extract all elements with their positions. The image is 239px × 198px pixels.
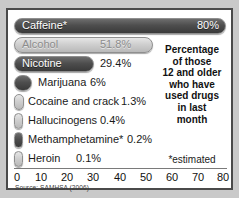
bar-marijuana xyxy=(14,75,32,91)
bar-row: Caffeine* 80% xyxy=(14,18,229,34)
chart-annotation: Percentage of those 12 and older who hav… xyxy=(156,44,228,125)
bar-heroin xyxy=(14,151,23,167)
x-axis-tick-label: 50 xyxy=(135,171,157,183)
bar-value: 80% xyxy=(197,19,219,31)
source-attribution: Source: SAMHSA (2006) xyxy=(15,184,89,191)
annotation-line: Percentage xyxy=(156,44,228,56)
bar-row: Methamphetamine* 0.2% xyxy=(14,132,229,148)
x-axis-tick-label: 20 xyxy=(56,171,78,183)
x-axis-tick-label: 40 xyxy=(109,171,131,183)
annotation-line: month xyxy=(156,114,228,126)
annotation-line: used drugs xyxy=(156,90,228,102)
x-axis-tick-label: 30 xyxy=(82,171,104,183)
x-axis-tick-label: 80 xyxy=(212,171,234,183)
annotation-line: of those xyxy=(156,56,228,68)
bar-methamphetamine xyxy=(14,132,23,148)
bar-value: 0.4% xyxy=(100,114,125,126)
bar-label: Caffeine* xyxy=(22,19,67,31)
bar-value: 6% xyxy=(90,76,106,88)
bar-value: 29.4% xyxy=(100,57,131,69)
bar-hallucinogens xyxy=(14,113,23,129)
bar-label: Methamphetamine* xyxy=(28,133,123,145)
annotation-line: in last xyxy=(156,102,228,114)
bar-value: 51.8% xyxy=(100,38,131,50)
annotation-line: 12 and older xyxy=(156,67,228,79)
bar-value: 0.1% xyxy=(76,152,101,164)
bar-label: Nicotine xyxy=(22,57,62,69)
chart-frame: Caffeine* 80% Alcohol 51.8% Nicotine 29.… xyxy=(6,8,233,190)
bar-label: Heroin xyxy=(28,152,60,164)
x-axis-tick-label: 0 xyxy=(6,171,28,183)
estimated-footnote: *estimated xyxy=(156,154,228,165)
bar-label: Marijuana xyxy=(38,76,86,88)
bar-value: 0.2% xyxy=(127,133,152,145)
bar-chart-plot-area: Caffeine* 80% Alcohol 51.8% Nicotine 29.… xyxy=(8,10,231,188)
bar-label: Cocaine and crack xyxy=(28,95,119,107)
x-axis-tick-label: 60 xyxy=(161,171,183,183)
bar-value: 1.3% xyxy=(121,95,146,107)
bar-label: Alcohol xyxy=(22,38,58,50)
bar-label: Hallucinogens xyxy=(28,114,97,126)
x-axis-tick-label: 10 xyxy=(30,171,52,183)
x-axis-line xyxy=(14,168,227,169)
annotation-line: who have xyxy=(156,79,228,91)
x-axis-tick-label: 70 xyxy=(187,171,209,183)
bar-cocaine-and-crack xyxy=(14,94,24,110)
